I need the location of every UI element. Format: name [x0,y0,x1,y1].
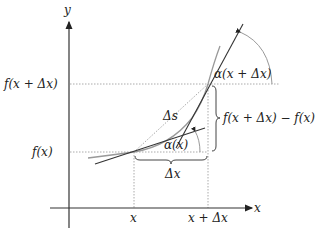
tick-x: x [130,211,137,225]
label-alpha-x: α(x) [164,138,189,152]
tangent-at-x-dx [176,24,243,148]
function-curve [88,46,220,158]
tick-f-x: f(x) [31,145,53,159]
x-axis-label: x [254,201,261,215]
axes [50,22,252,228]
tick-f-x-dx: f(x + Δx) [3,77,58,91]
label-delta-s: Δs [162,109,178,123]
y-axis-label: y [63,3,71,17]
label-delta-x: Δx [164,167,181,181]
brace-delta-x [135,156,207,164]
brace-delta-f [212,86,220,151]
derivative-diagram: y x x x + Δx f(x) f(x + Δx) Δs Δx f(x + … [0,0,319,237]
label-alpha-x-dx: α(x + Δx) [214,67,272,81]
tangent-at-x [95,128,205,164]
angle-arc-x [195,131,200,152]
label-delta-f: f(x + Δx) − f(x) [222,111,315,125]
tick-x-dx: x + Δx [188,211,228,225]
